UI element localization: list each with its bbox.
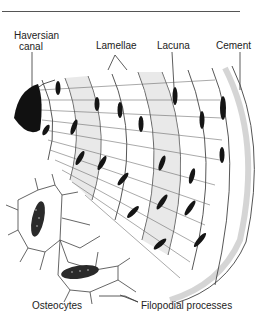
leader-lines (32, 52, 240, 302)
osteocyte-network (6, 174, 136, 304)
haversian-canal (14, 84, 42, 132)
osteocytes (28, 200, 99, 281)
canaliculi (40, 80, 222, 278)
cement-line (170, 66, 254, 303)
osteon-illustration (0, 0, 271, 323)
osteocyte-1 (28, 200, 47, 238)
